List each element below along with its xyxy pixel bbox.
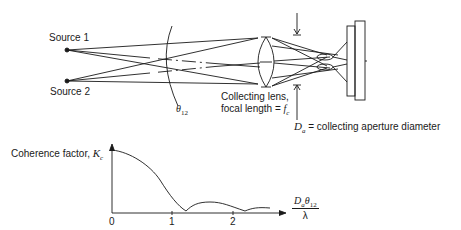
chart-axes (110, 144, 287, 216)
source-1-label: Source 1 (49, 33, 89, 43)
lens-label-line1: Collecting lens, (221, 92, 289, 102)
lens-label-line2: focal length = fc (221, 104, 289, 114)
source-2-label: Source 2 (50, 87, 90, 97)
source-2-rays (67, 38, 260, 84)
coherence-curve (112, 150, 270, 211)
source-1-rays (67, 38, 260, 84)
x-tick-label-2: 2 (230, 217, 236, 227)
angle-arc (166, 26, 178, 106)
x-tick-label-0: 0 (109, 217, 115, 227)
chart-ylabel: Coherence factor, Kc (11, 148, 103, 159)
detector-plate-outer (355, 21, 365, 100)
converging-rays (272, 38, 338, 86)
angle-label: θ12 (176, 104, 188, 114)
x-tick-label-1: 1 (169, 217, 175, 227)
chart-xlabel: Daθ12 λ (292, 196, 319, 221)
aperture-arrows (293, 13, 301, 120)
detector-plate-inner (347, 26, 355, 96)
aperture-label: Da = collecting aperture diameter (294, 121, 440, 132)
